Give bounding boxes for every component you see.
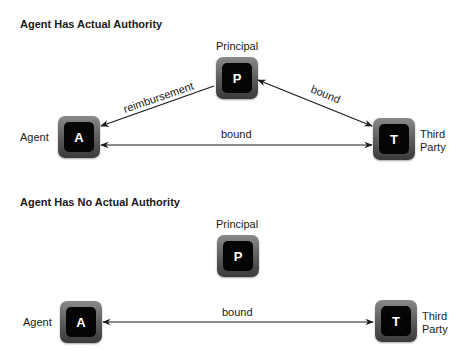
- edges-layer: reimbursement bound bound bound: [0, 0, 467, 363]
- edge-label-agent-third-party: bound: [221, 128, 252, 140]
- edge-label-reimbursement: reimbursement: [122, 80, 195, 115]
- edge-label-agent-third-party-2: bound: [222, 306, 253, 318]
- edge-label-principal-third-party: bound: [309, 83, 342, 106]
